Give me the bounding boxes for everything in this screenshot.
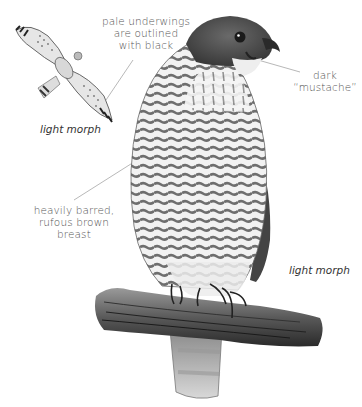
annotation-mustache-line-1: dark [288,69,362,81]
annotation-breast-line-3: breast [28,228,120,240]
annotation-breast: heavily barred, rufous brown breast [28,204,120,240]
hawk-illustration-plate: pale underwings are outlined with black … [0,0,362,407]
caption-perched-light-morph: light morph [289,264,350,276]
annotation-underwings-line-3: with black [92,39,200,51]
annotation-mustache: dark “mustache” [288,69,362,93]
annotation-mustache-line-2: “mustache” [288,81,362,93]
annotation-breast-line-1: heavily barred, [28,204,120,216]
branch [95,288,323,346]
annotation-underwings-line-1: pale underwings [92,15,200,27]
caption-flying-light-morph: light morph [40,123,101,135]
annotation-underwings: pale underwings are outlined with black [92,15,200,51]
annotation-breast-line-2: rufous brown [28,216,120,228]
annotation-underwings-line-2: are outlined [92,27,200,39]
